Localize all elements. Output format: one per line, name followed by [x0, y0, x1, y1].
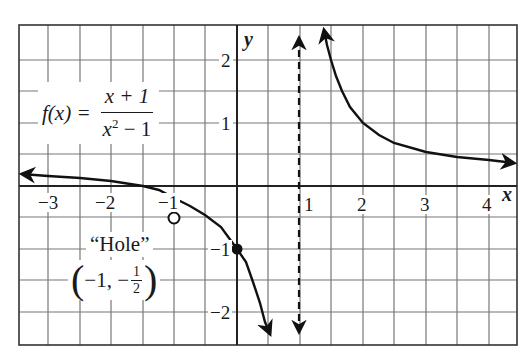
hole-coord-fraction: 1 2 [131, 264, 142, 297]
x-tick-1: 1 [302, 195, 316, 214]
x-tick-2: 2 [355, 195, 369, 214]
hole-coordinate: ( −1, − 1 2 ) [68, 260, 160, 300]
x-tick-neg1: −1 [156, 193, 180, 212]
x-axis-label: x [502, 184, 512, 204]
formula-fraction: x + 1 x2 − 1 [99, 84, 156, 142]
hole-open-point [169, 213, 180, 224]
hole-coord-text: −1, − [84, 268, 129, 293]
x-tick-neg2: −2 [93, 193, 117, 212]
formula-numerator: x + 1 [101, 84, 154, 113]
den-base: x [103, 117, 112, 141]
formula-lhs: f(x) = [42, 101, 91, 126]
y-axis-label: y [244, 29, 253, 49]
formula-denominator: x2 − 1 [99, 113, 156, 142]
frac-den: 2 [133, 281, 140, 297]
function-formula: f(x) = x + 1 x2 − 1 [38, 82, 159, 144]
y-tick-1: 1 [219, 114, 233, 133]
y-tick-2: 2 [219, 51, 233, 70]
y-tick-neg1: −1 [208, 240, 232, 259]
x-tick-3: 3 [418, 195, 432, 214]
x-tick-4: 4 [480, 195, 494, 214]
den-rest: − 1 [118, 117, 151, 141]
paren-close: ) [144, 260, 157, 300]
y-intercept-point [232, 244, 243, 255]
paren-open: ( [71, 260, 84, 300]
x-tick-neg3: −3 [36, 193, 60, 212]
frac-num: 1 [131, 264, 142, 281]
y-tick-neg2: −2 [208, 303, 232, 322]
hole-label: “Hole” [86, 232, 153, 257]
chart-canvas [0, 0, 532, 360]
right-branch [324, 30, 514, 163]
